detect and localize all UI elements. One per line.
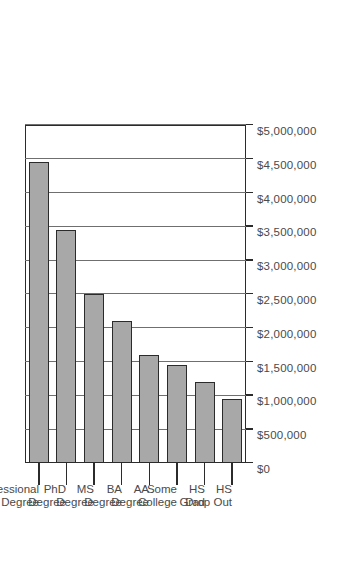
bar [56, 230, 76, 463]
value-axis-tick [246, 394, 253, 396]
bar-chart-figure: $0$500,000$1,000,000$1,500,000$2,000,000… [0, 0, 349, 584]
bar [195, 382, 215, 463]
gridline [25, 158, 246, 159]
value-axis-tick [246, 158, 253, 160]
value-axis-tick [246, 462, 253, 464]
category-axis-label: ProfessionalDegree [0, 483, 39, 508]
rotated-figure-wrapper: $0$500,000$1,000,000$1,500,000$2,000,000… [0, 0, 349, 584]
bar [112, 321, 132, 463]
value-axis-label: $5,000,000 [257, 125, 317, 137]
value-axis-tick [246, 124, 253, 126]
value-axis-label: $0 [257, 463, 270, 475]
value-axis-tick [246, 327, 253, 329]
value-axis-tick [246, 259, 253, 261]
value-axis-tick [246, 428, 253, 430]
bar [29, 162, 49, 463]
bar [167, 365, 187, 463]
value-axis-label: $4,000,000 [257, 193, 317, 205]
bar [84, 294, 104, 463]
value-axis-tick [246, 361, 253, 363]
value-axis-label: $2,000,000 [257, 328, 317, 340]
gridline [25, 125, 246, 126]
value-axis-tick [246, 225, 253, 227]
gridline [25, 226, 246, 227]
value-axis-tick [246, 293, 253, 295]
value-axis-label: $500,000 [257, 429, 307, 441]
gridline [25, 192, 246, 193]
bar [222, 399, 242, 463]
value-axis-label: $1,000,000 [257, 395, 317, 407]
value-axis-tick [246, 192, 253, 194]
value-axis-label: $4,500,000 [257, 159, 317, 171]
value-axis-label: $1,500,000 [257, 362, 317, 374]
value-axis-label: $3,000,000 [257, 260, 317, 272]
value-axis-label: $2,500,000 [257, 294, 317, 306]
value-axis-label: $3,500,000 [257, 226, 317, 238]
bar [139, 355, 159, 463]
